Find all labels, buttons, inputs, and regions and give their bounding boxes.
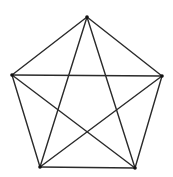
vertex-top bbox=[85, 15, 89, 19]
pentagram-diagram bbox=[0, 0, 173, 177]
edges-group bbox=[12, 17, 162, 168]
vertex-right bbox=[160, 74, 164, 78]
edge-left-bottom-left bbox=[12, 75, 40, 167]
vertex-left bbox=[10, 73, 14, 77]
edge-top-bottom-left bbox=[40, 17, 87, 167]
edge-left-bottom-right bbox=[12, 75, 135, 168]
edge-top-left bbox=[12, 17, 87, 75]
edge-top-right bbox=[87, 17, 162, 76]
edge-top-bottom-right bbox=[87, 17, 135, 168]
edge-bottom-left-bottom-right bbox=[40, 167, 135, 168]
edge-right-bottom-left bbox=[40, 76, 162, 167]
edge-right-bottom-right bbox=[135, 76, 162, 168]
vertex-bottom-right bbox=[133, 166, 137, 170]
vertex-bottom-left bbox=[38, 165, 42, 169]
edge-left-right bbox=[12, 75, 162, 76]
